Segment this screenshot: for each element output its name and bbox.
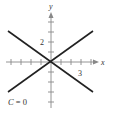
x-axis-arrow-icon [93,60,99,65]
caption-value: = 0 [14,97,27,107]
caption: C = 0 [8,97,27,107]
level-curve-graph: y x 2 3 C = 0 [0,0,113,113]
y-axis-label: y [48,2,53,11]
y-axis-arrow-icon [49,12,54,18]
x-axis-label: x [100,58,105,67]
x-tick-label: 3 [78,69,82,78]
y-tick-label: 2 [40,38,44,47]
